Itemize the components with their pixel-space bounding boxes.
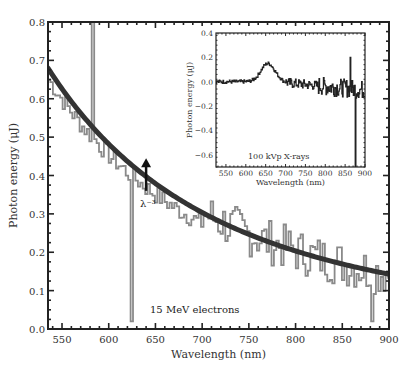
x-tick-label: 750 [298,169,313,178]
x-tick-label: 650 [146,334,165,345]
x-tick-label: 800 [318,169,333,178]
x-tick-label: 850 [333,334,352,345]
x-tick-label: 600 [99,334,118,345]
x-tick-label: 650 [259,169,274,178]
inset-plot: 550600650700750800850900−0.6−0.4−0.20.00… [180,26,376,196]
chart-annotation: 15 MeV electrons [150,304,240,315]
fit-label: λ⁻³ [140,198,156,209]
y-tick-label: 0.0 [29,324,45,335]
y-tick-label: 0.6 [29,94,45,105]
y-tick-label: 0.2 [201,53,213,62]
y-tick-label: 0.7 [29,55,45,66]
y-tick-label: 0.4 [29,171,45,182]
x-axis-title: Wavelength (nm) [171,348,266,361]
x-tick-label: 900 [358,169,373,178]
x-tick-label: 600 [239,169,254,178]
x-tick-label: 550 [219,169,234,178]
y-tick-label: −0.4 [195,126,213,135]
x-tick-label: 700 [193,334,212,345]
y-tick-label: 0.5 [29,132,45,143]
x-tick-label: 750 [239,334,258,345]
y-tick-label: 0.1 [29,286,45,297]
x-tick-label: 800 [286,334,305,345]
y-tick-label: 0.3 [29,209,45,220]
x-tick-label: 900 [379,334,398,345]
y-tick-label: 0.2 [29,247,45,258]
y-axis-title: Photon energy (μJ) [185,62,194,138]
x-axis-title: Wavelength (nm) [256,178,325,187]
y-tick-label: 0.8 [29,17,45,28]
y-tick-label: 0.0 [201,78,213,87]
chart-annotation: 100 kVp X-rays [248,152,309,161]
x-tick-label: 850 [338,169,353,178]
x-tick-label: 550 [52,334,71,345]
y-tick-label: −0.6 [195,151,213,160]
y-tick-label: 0.4 [201,29,213,38]
y-axis-title: Photon energy (μJ) [7,123,20,228]
chart: 5506006507007508008509000.00.10.20.30.40… [0,0,411,368]
y-tick-label: −0.2 [195,102,213,111]
x-tick-label: 700 [278,169,293,178]
